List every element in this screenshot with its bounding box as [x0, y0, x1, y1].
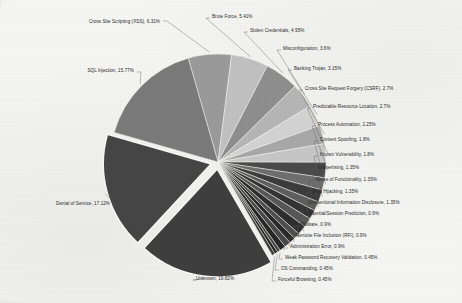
slice-label-malvertising: Malvertising, 1.35% — [318, 166, 359, 171]
slice-label-content-spoofing: Content Spoofing, 1.8% — [320, 138, 370, 143]
slice-label-remote-file-inclusion: Remote File Inclusion (RFI), 0.9% — [296, 234, 367, 239]
slice-label-stolen-credentials: Stolen Credentials, 4.95% — [250, 29, 304, 34]
slice-label-denial-of-service: Denial of Service, 17.12% — [56, 202, 110, 207]
slice-label-dns-hijacking: DNS Hijacking, 1.35% — [312, 190, 358, 195]
slice-label-credential-session-prediction: Credential/Session Prediction, 0.9% — [304, 212, 379, 217]
slice-label-weak-password-recovery: Weak Password Recovery Validation, 0.45% — [285, 256, 377, 261]
slice-label-sql-injection: SQL Injection, 15.77% — [87, 69, 134, 74]
slice-label-misconfiguration: Misconfiguration, 3.6% — [283, 47, 331, 52]
slice-label-banking-trojan: Banking Trojan, 3.15% — [294, 67, 341, 72]
leader-line — [284, 248, 288, 250]
pie-chart-figure: Cross Site Scripting (XSS), 6.31% SQL In… — [0, 0, 462, 303]
slice-label-forceful-browsing: Forceful Browsing, 0.45% — [278, 278, 332, 283]
slice-label-csrf: Cross Site Request Forgery (CSRF), 2.7% — [305, 87, 394, 92]
slice-label-process-automation: Process Automation, 2.25% — [318, 123, 376, 128]
leader-line — [279, 253, 283, 259]
slice-label-unknown: Unknown, 19.82% — [196, 277, 234, 282]
slice-label-known-vulnerability: Known Vulnerability, 1.8% — [320, 153, 374, 158]
leader-line — [137, 72, 141, 84]
slice-label-unintentional-information-disclosure: Unintentional Information Disclosure, 1.… — [308, 201, 400, 206]
slice-label-os-commanding: OS Commanding, 0.45% — [281, 267, 333, 272]
slice-label-predictable-resource-location: Predictable Resource Location, 2.7% — [313, 105, 390, 110]
leader-line — [206, 18, 251, 57]
slice-label-brute-force: Brute Force, 5.41% — [212, 15, 252, 20]
slice-label-malware: Malware, 0.9% — [300, 223, 331, 228]
leader-line — [163, 21, 210, 52]
slice-label-cross-site-scripting: Cross Site Scripting (XSS), 6.31% — [89, 20, 160, 25]
slice-label-administration-error: Administration Error, 0.9% — [290, 245, 345, 250]
leader-line — [275, 255, 279, 270]
pie-chart-canvas — [0, 0, 462, 303]
slice-label-abuse-of-functionality: Abuse of Functionality, 1.35% — [315, 178, 377, 183]
